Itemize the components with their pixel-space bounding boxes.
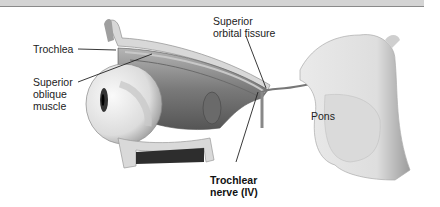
label-line: Superior bbox=[213, 15, 275, 27]
label-superior-orbital-fissure: Superior orbital fissure bbox=[213, 15, 275, 39]
label-trochlea-text: Trochlea bbox=[33, 43, 73, 55]
label-pons-text: Pons bbox=[311, 110, 335, 122]
label-line: oblique bbox=[33, 88, 73, 100]
label-pons: Pons bbox=[311, 110, 335, 122]
label-line: muscle bbox=[33, 100, 73, 112]
label-trochlear-nerve: Trochlear nerve (IV) bbox=[210, 174, 258, 198]
label-line: orbital fissure bbox=[213, 27, 275, 39]
label-line: Trochlear bbox=[210, 174, 258, 186]
brainstem bbox=[300, 35, 410, 180]
label-trochlea: Trochlea bbox=[33, 43, 73, 55]
eyeball bbox=[86, 64, 162, 144]
leader-trochlea bbox=[78, 49, 116, 50]
orbital-floor-bone bbox=[118, 138, 214, 168]
label-line: Superior bbox=[33, 76, 73, 88]
label-line: nerve (IV) bbox=[210, 186, 258, 198]
label-superior-oblique-muscle: Superior oblique muscle bbox=[33, 76, 73, 112]
